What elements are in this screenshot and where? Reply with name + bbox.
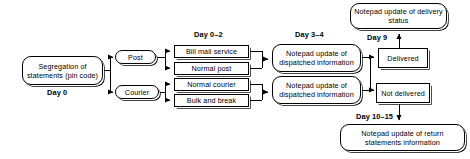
node-bulk-and-break[interactable]: Bulk and break bbox=[174, 94, 249, 107]
day-label-day-0-2: Day 0–2 bbox=[194, 30, 223, 39]
day-label-day-3-4: Day 3–4 bbox=[295, 30, 324, 39]
node-normal-courier-label: Normal courier bbox=[185, 80, 238, 89]
node-segregation-label: Segregation of statements (pin code) bbox=[23, 62, 102, 80]
day-label-day-0: Day 0 bbox=[47, 88, 67, 97]
node-notepad-delivery-status-label: Notepad update of delivery status bbox=[351, 7, 446, 25]
node-delivered[interactable]: Delivered bbox=[378, 48, 428, 68]
node-notepad-dispatch-post-label: Notepad update of dispatched information bbox=[273, 49, 360, 67]
node-segregation[interactable]: Segregation of statements (pin code) bbox=[22, 56, 103, 85]
flowchart-canvas: Segregation of statements (pin code) Pos… bbox=[0, 0, 470, 159]
node-notepad-dispatch-courier[interactable]: Notepad update of dispatched information bbox=[272, 76, 361, 104]
node-notepad-delivery-status[interactable]: Notepad update of delivery status bbox=[350, 3, 447, 29]
node-post[interactable]: Post bbox=[115, 50, 156, 64]
node-courier-label: Courier bbox=[123, 88, 151, 97]
node-not-delivered-label: Not delivered bbox=[379, 89, 427, 98]
node-notepad-return-statements[interactable]: Notepad update of return statements info… bbox=[340, 124, 465, 151]
node-normal-post-label: Normal post bbox=[190, 64, 234, 73]
day-label-day-9: Day 9 bbox=[367, 33, 387, 42]
node-post-label: Post bbox=[126, 53, 145, 62]
node-delivered-label: Delivered bbox=[385, 54, 420, 63]
node-courier[interactable]: Courier bbox=[115, 85, 159, 99]
node-bulk-and-break-label: Bulk and break bbox=[185, 96, 238, 105]
node-normal-post[interactable]: Normal post bbox=[174, 62, 249, 75]
node-not-delivered[interactable]: Not delivered bbox=[376, 83, 430, 103]
node-bill-mail-service-label: Bill mail service bbox=[184, 47, 239, 56]
node-bill-mail-service[interactable]: Bill mail service bbox=[174, 45, 249, 58]
node-notepad-return-statements-label: Notepad update of return statements info… bbox=[341, 129, 464, 147]
node-notepad-dispatch-post[interactable]: Notepad update of dispatched information bbox=[272, 44, 361, 72]
node-notepad-dispatch-courier-label: Notepad update of dispatched information bbox=[273, 81, 360, 99]
node-normal-courier[interactable]: Normal courier bbox=[174, 78, 249, 91]
day-label-day-10-15: Day 10–15 bbox=[356, 112, 393, 121]
